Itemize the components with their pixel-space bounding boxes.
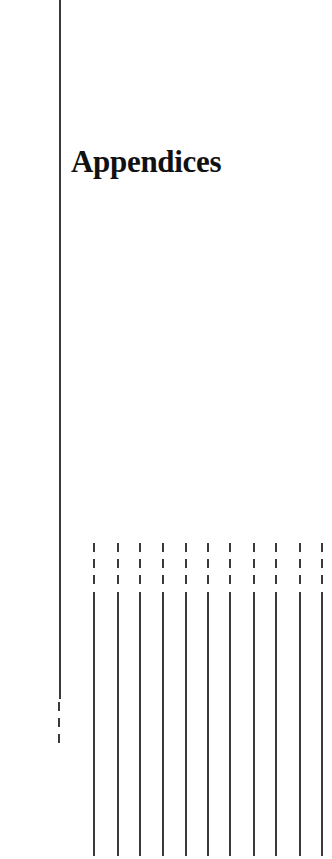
rule-solid-segment	[299, 592, 301, 856]
rule-dashed-segment	[229, 543, 231, 590]
rule-solid-segment	[162, 592, 164, 856]
rule-dashed-segment	[185, 543, 187, 590]
rule-solid-segment	[321, 592, 323, 856]
rule-dashed-segment	[93, 543, 95, 590]
rule-dashed-segment	[275, 543, 277, 590]
page-title: Appendices	[71, 144, 221, 180]
rule-dashed-segment	[117, 543, 119, 590]
rule-solid-segment	[275, 592, 277, 856]
rule-solid-segment	[207, 592, 209, 856]
rule-solid-segment	[117, 592, 119, 856]
rule-dashed-segment	[321, 543, 323, 590]
left-margin-rule-dashed	[58, 702, 60, 750]
rule-dashed-segment	[299, 543, 301, 590]
rule-solid-segment	[139, 592, 141, 856]
rule-dashed-segment	[139, 543, 141, 590]
rule-solid-segment	[253, 592, 255, 856]
rule-solid-segment	[185, 592, 187, 856]
rule-solid-segment	[229, 592, 231, 856]
rule-dashed-segment	[253, 543, 255, 590]
rule-dashed-segment	[207, 543, 209, 590]
left-margin-rule	[59, 0, 61, 699]
rule-dashed-segment	[162, 543, 164, 590]
rule-solid-segment	[93, 592, 95, 856]
